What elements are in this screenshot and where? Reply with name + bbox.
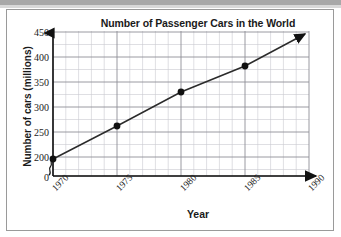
- data-point-1975: [114, 123, 121, 130]
- data-point-1980: [178, 89, 185, 96]
- data-point-markers: [50, 63, 249, 163]
- y-axis-break-icon: [49, 161, 52, 176]
- line-chart-figure: Number of Passenger Cars in the World Nu…: [0, 0, 341, 237]
- chart-canvas: [0, 0, 341, 237]
- data-point-1985: [242, 63, 249, 70]
- data-point-1970: [50, 156, 57, 163]
- chart-page: Number of Passenger Cars in the World Nu…: [0, 0, 341, 237]
- data-series-line: [53, 34, 305, 159]
